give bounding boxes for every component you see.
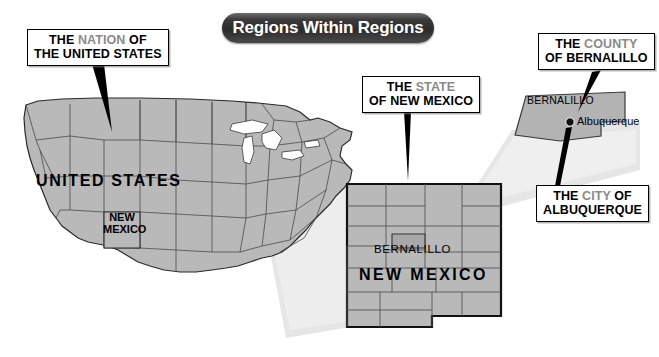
page-title: Regions Within Regions: [222, 13, 434, 43]
callout-state-line2: OF NEW MEXICO: [369, 94, 473, 108]
callout-nation[interactable]: THE NATION OF THE UNITED STATES: [27, 29, 169, 66]
callout-city-l1a: THE: [553, 189, 582, 203]
callout-county-l1a: THE: [555, 37, 584, 51]
callout-state[interactable]: THE STATE OF NEW MEXICO: [362, 76, 480, 113]
infographic-canvas: Regions Within Regions THE NATION OF THE…: [0, 0, 659, 357]
callout-state-line1: THE STATE: [369, 80, 473, 94]
callout-city-l1c: OF: [611, 189, 632, 203]
callout-nation-l1a: THE: [49, 33, 78, 47]
callout-nation-l1b: NATION: [78, 33, 126, 47]
callout-city[interactable]: THE CITY OF ALBUQUERQUE: [536, 185, 649, 222]
pointer-city: [555, 127, 572, 186]
page-title-text: Regions Within Regions: [233, 18, 424, 38]
callout-county-l1b: COUNTY: [584, 37, 637, 51]
pointer-state: [404, 111, 411, 181]
callout-city-line2: ALBUQUERQUE: [543, 203, 642, 217]
callout-nation-line2: THE UNITED STATES: [34, 47, 162, 61]
pointer-county: [578, 70, 601, 112]
callout-nation-l1c: OF: [125, 33, 146, 47]
callout-city-line1: THE CITY OF: [543, 189, 642, 203]
callout-nation-line1: THE NATION OF: [34, 33, 162, 47]
callout-county-line2: OF BERNALILLO: [545, 51, 648, 65]
callout-state-l1a: THE: [387, 80, 416, 94]
callout-city-l1b: CITY: [582, 189, 611, 203]
callout-state-l1b: STATE: [416, 80, 456, 94]
pointer-nation: [92, 64, 112, 132]
callout-county-line1: THE COUNTY: [545, 37, 648, 51]
callout-county[interactable]: THE COUNTY OF BERNALILLO: [538, 33, 655, 70]
